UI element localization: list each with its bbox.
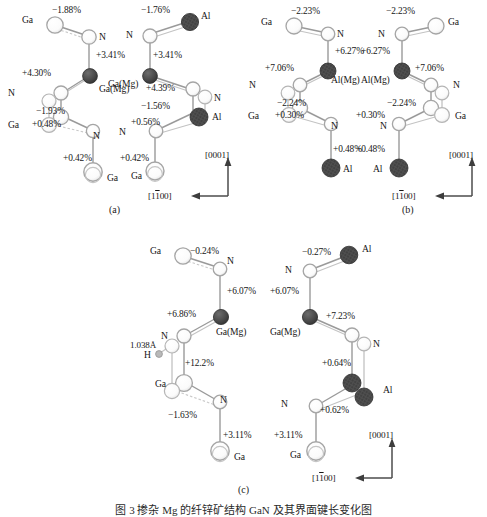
atom-open bbox=[177, 329, 191, 343]
atom-filled-mg bbox=[213, 309, 228, 324]
atom-label: N bbox=[249, 79, 256, 90]
bond-percent: +0.48% bbox=[356, 144, 385, 154]
atom-filled-mg bbox=[83, 69, 98, 84]
atom-label: N bbox=[8, 87, 15, 98]
atom-label: Ga bbox=[290, 449, 301, 460]
atom-label: N bbox=[331, 120, 338, 131]
atom-label: N bbox=[227, 255, 234, 266]
atom-label: N bbox=[281, 398, 288, 409]
atom-open bbox=[176, 375, 193, 392]
atom-open bbox=[428, 18, 444, 34]
atom-open bbox=[186, 82, 200, 96]
atom-open bbox=[82, 30, 96, 44]
bond-percent: −1.76% bbox=[141, 5, 170, 15]
bond-percent: +3.41% bbox=[153, 50, 182, 60]
bond-percent: −1.56% bbox=[141, 101, 170, 111]
bond-percent: +12.2% bbox=[185, 358, 214, 368]
atom-open bbox=[213, 262, 227, 276]
atom-open bbox=[395, 27, 409, 41]
axis-label-horizontal: [1100] bbox=[148, 191, 172, 201]
atom-open bbox=[424, 78, 438, 92]
atom-filled-al bbox=[322, 159, 340, 177]
structure-c-right bbox=[302, 246, 373, 461]
atom-open bbox=[54, 86, 68, 100]
atom-label: Ga(Mg) bbox=[108, 78, 138, 89]
atom-label: N bbox=[380, 120, 387, 131]
bond-percent: +6.07% bbox=[270, 286, 299, 296]
panel-a-structures bbox=[0, 0, 243, 200]
axis-indicator-b bbox=[435, 157, 475, 199]
atom-open bbox=[146, 162, 164, 180]
atom-open bbox=[345, 328, 359, 342]
atom-filled-mg bbox=[394, 63, 410, 79]
bond-percent: +6.07% bbox=[227, 286, 256, 296]
atom-open bbox=[435, 108, 450, 123]
atom-filled-al bbox=[190, 108, 208, 126]
atom-label: Al bbox=[373, 163, 382, 174]
atom-open bbox=[308, 446, 323, 461]
atom-open bbox=[164, 383, 179, 398]
atom-label: Al bbox=[212, 111, 221, 122]
bond-percent: +6.86% bbox=[167, 309, 196, 319]
bond-percent: +6.27% bbox=[335, 46, 364, 56]
atom-open bbox=[175, 248, 191, 264]
structure-c-left bbox=[156, 248, 230, 462]
atom-label: Al(Mg) bbox=[331, 74, 360, 85]
atom-open bbox=[165, 339, 179, 353]
atom-open bbox=[321, 27, 335, 41]
atom-label: Al bbox=[201, 10, 210, 21]
bond-percent: +6.27% bbox=[361, 46, 390, 56]
atom-label: H bbox=[144, 349, 151, 360]
atom-label: Ga bbox=[107, 172, 118, 183]
bond-percent: +7.06% bbox=[265, 63, 294, 73]
bond-percent: +3.11% bbox=[223, 430, 252, 440]
bond-percent: +4.39% bbox=[146, 83, 175, 93]
bond-percent: +0.30% bbox=[275, 110, 304, 120]
atom-open bbox=[293, 78, 307, 92]
axis-indicator-a bbox=[191, 157, 231, 199]
atom-label: Ga bbox=[155, 378, 166, 389]
bond-percent: +0.42% bbox=[120, 153, 149, 163]
atom-open bbox=[211, 442, 229, 460]
atom-open bbox=[307, 442, 325, 460]
panel-b: Ga −2.23% N +6.27% +7.06% Al(Mg) N −2.24… bbox=[243, 0, 487, 220]
panel-label-b: (b) bbox=[402, 204, 414, 215]
atom-label: N bbox=[119, 126, 126, 137]
bond-percent: +0.64% bbox=[322, 358, 351, 368]
atom-label: N bbox=[161, 330, 168, 341]
atom-open bbox=[392, 117, 405, 130]
bond-percent: +3.41% bbox=[96, 50, 125, 60]
atom-label: N bbox=[126, 29, 133, 40]
atom-label: Ga(Mg) bbox=[216, 326, 246, 337]
atom-label: N bbox=[99, 31, 106, 42]
atom-hydrogen bbox=[156, 351, 163, 358]
panel-a: Ga −1.88% N +3.41% +4.30% Ga(Mg) N −1.93… bbox=[0, 0, 243, 220]
atom-open bbox=[303, 264, 317, 278]
panel-label-c: (c) bbox=[0, 484, 487, 495]
atom-label: N bbox=[214, 92, 221, 103]
bond-percent: +0.30% bbox=[356, 110, 385, 120]
atom-label: N bbox=[93, 130, 100, 141]
bond-percent: −0.27% bbox=[302, 247, 331, 257]
atom-filled-mg bbox=[143, 69, 158, 84]
atom-open bbox=[47, 17, 63, 33]
bond-percent: +0.48% bbox=[32, 119, 61, 129]
atom-filled-al bbox=[181, 13, 198, 30]
axis-label-vertical: [0001] bbox=[449, 150, 473, 160]
atom-label: Ga bbox=[150, 245, 161, 256]
bond-percent: +0.42% bbox=[63, 153, 92, 163]
bond-percent: −2.23% bbox=[386, 6, 415, 16]
bond-percent: +0.56% bbox=[131, 117, 160, 127]
bond-percent: −0.24% bbox=[190, 246, 219, 256]
atom-open bbox=[357, 337, 371, 351]
atom-open bbox=[85, 167, 100, 182]
bond-percent: +7.23% bbox=[326, 311, 355, 321]
atom-label: Ga(Mg) bbox=[270, 326, 300, 337]
bond-percent: −1.63% bbox=[168, 410, 197, 420]
atom-label: Ga bbox=[448, 16, 459, 27]
atom-filled-al bbox=[340, 246, 358, 264]
atom-open bbox=[212, 446, 227, 461]
atom-label: Ga bbox=[22, 14, 33, 25]
atom-filled-al bbox=[343, 374, 361, 392]
